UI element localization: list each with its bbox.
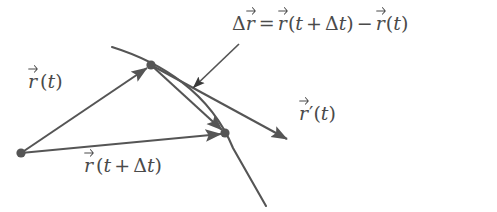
- pointer-line-to-delta-r: [193, 44, 239, 88]
- delta-symbol: Δ: [232, 12, 246, 34]
- vector-r-accented: r: [246, 14, 256, 33]
- r-letter-2: r: [278, 12, 287, 34]
- close-paren-2: ): [401, 12, 408, 34]
- origin-dot: [16, 148, 25, 157]
- minus-symbol: −: [354, 12, 376, 34]
- vector-r-of-t-plus-delta-t: [21, 134, 221, 153]
- t-variable: t: [295, 12, 303, 34]
- close-paren-rtdt: ): [155, 154, 162, 176]
- vector-r-accented-rt: r: [28, 72, 38, 91]
- close-paren: ): [346, 12, 353, 34]
- r-letter-rp: r: [299, 102, 308, 124]
- t-variable-rtdt-2: t: [147, 154, 155, 176]
- plus-symbol: +: [303, 12, 325, 34]
- label-r-of-t-plus-delta-t: r(t+Δt): [84, 156, 162, 175]
- trajectory-curve: [112, 47, 266, 206]
- plus-symbol-rtdt: +: [111, 154, 133, 176]
- vector-r-accented-3: r: [376, 14, 386, 33]
- vector-r-accented-2: r: [278, 14, 288, 33]
- point-r-of-t-dot: [146, 60, 155, 69]
- t-variable-rtdt: t: [104, 154, 112, 176]
- label-r-prime-of-t: r′(t): [299, 104, 336, 123]
- delta-symbol-rtdt: Δ: [133, 154, 147, 176]
- delta-symbol-2: Δ: [325, 12, 339, 34]
- vector-r-accented-rp: r: [299, 104, 309, 123]
- equals-symbol: =: [256, 12, 278, 34]
- close-paren-rp: ): [328, 102, 335, 124]
- t-variable-3: t: [393, 12, 401, 34]
- open-paren-rtdt: (: [96, 154, 103, 176]
- open-paren-rt: (: [40, 70, 47, 92]
- r-letter: r: [246, 12, 255, 34]
- open-paren-rp: (: [313, 102, 320, 124]
- vector-r-accented-rtdt: r: [84, 156, 94, 175]
- r-letter-rt: r: [28, 70, 37, 92]
- close-paren-rt: ): [55, 70, 62, 92]
- label-delta-r-equation: Δr=r(t+Δt)−r(t): [232, 14, 408, 33]
- label-r-of-t: r(t): [28, 72, 63, 91]
- t-variable-rt: t: [48, 70, 56, 92]
- point-r-of-t-plus-delta-t-dot: [220, 128, 229, 137]
- r-letter-3: r: [376, 12, 385, 34]
- r-letter-rtdt: r: [84, 154, 93, 176]
